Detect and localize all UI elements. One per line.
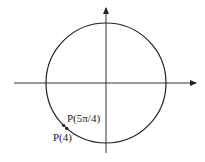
point-p-4 [65,127,68,130]
label-p-4: P(4) [53,131,72,144]
label-p-5pi-4: P(5π/4) [67,112,100,125]
unit-circle-diagram: P(5π/4) P(4) [0,0,205,162]
point-p-5pi-4 [62,124,65,127]
